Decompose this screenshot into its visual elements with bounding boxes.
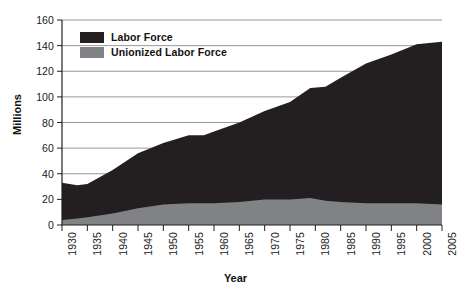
legend-label-labor-force: Labor Force — [111, 31, 173, 43]
series-areas-group — [62, 42, 442, 225]
x-tick-label-1975: 1975 — [294, 232, 306, 256]
x-tick-label-1960: 1960 — [218, 232, 230, 256]
x-tick-label-2005: 2005 — [446, 232, 458, 256]
x-axis-tick-labels: 1930193519401945195019551960196519701975… — [62, 232, 442, 276]
chart-figure: 020406080100120140160 193019351940194519… — [0, 0, 471, 292]
x-tick-label-1945: 1945 — [142, 232, 154, 256]
x-tick-label-1940: 1940 — [117, 232, 129, 256]
x-tick-label-1950: 1950 — [167, 232, 179, 256]
legend-swatch-unionized-labor-force — [80, 47, 104, 58]
chart-legend: Labor Force Unionized Labor Force — [80, 31, 227, 58]
x-tick-label-1980: 1980 — [319, 232, 331, 256]
y-tick-label-120: 120 — [36, 65, 54, 77]
y-tick-label-40: 40 — [42, 168, 54, 180]
x-tick-label-2000: 2000 — [421, 232, 433, 256]
y-axis-title: Millions — [11, 94, 23, 135]
x-tick-label-1930: 1930 — [66, 232, 78, 256]
x-tick-label-1970: 1970 — [269, 232, 281, 256]
y-tick-label-20: 20 — [42, 193, 54, 205]
x-axis-title: Year — [0, 272, 471, 284]
x-tick-label-1995: 1995 — [395, 232, 407, 256]
x-tick-label-1965: 1965 — [243, 232, 255, 256]
x-tick-label-1990: 1990 — [370, 232, 382, 256]
y-tick-label-100: 100 — [36, 91, 54, 103]
legend-item-unionized-labor-force: Unionized Labor Force — [80, 46, 227, 58]
x-tick-label-1935: 1935 — [91, 232, 103, 256]
y-tick-label-80: 80 — [42, 117, 54, 129]
x-tick-label-1985: 1985 — [345, 232, 357, 256]
y-tick-label-160: 160 — [36, 14, 54, 26]
y-tick-label-60: 60 — [42, 142, 54, 154]
legend-label-unionized-labor-force: Unionized Labor Force — [111, 46, 227, 58]
x-tick-label-1955: 1955 — [193, 232, 205, 256]
area-series-0 — [62, 42, 442, 225]
legend-item-labor-force: Labor Force — [80, 31, 227, 43]
y-tick-label-0: 0 — [48, 219, 54, 231]
legend-swatch-labor-force — [80, 32, 104, 43]
y-tick-label-140: 140 — [36, 40, 54, 52]
